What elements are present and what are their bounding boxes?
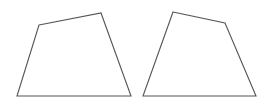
shapes-svg	[0, 0, 272, 108]
figure-canvas	[0, 0, 272, 108]
left-quadrilateral	[17, 13, 131, 96]
right-quadrilateral	[143, 12, 256, 96]
